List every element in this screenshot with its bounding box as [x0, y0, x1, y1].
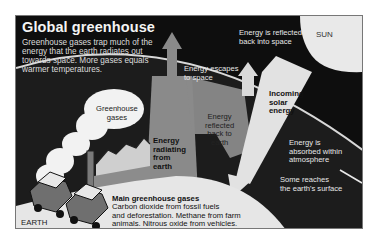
earth-label: EARTH	[21, 219, 47, 228]
diagram-title: Global greenhouse	[22, 19, 155, 35]
reaches-surface-label: Some reaches the earth's surface	[280, 176, 342, 193]
greenhouse-gases-label: Greenhouse gases	[96, 105, 138, 122]
absorbed-atmosphere-label: Energy is absorbed within atmosphere	[289, 139, 342, 165]
radiating-from-earth-label: Energy radiating from earth	[153, 137, 186, 172]
sun-shape	[300, 16, 363, 72]
main-gases-note: Main greenhouse gases Carbon dioxide fro…	[112, 195, 282, 229]
greenhouse-diagram: Global greenhouse Greenhouse gases trap …	[15, 15, 363, 229]
intro-text: Greenhouse gases trap much of the energy…	[22, 38, 162, 74]
reflected-to-earth-label: Energy reflected back to earth	[205, 113, 234, 147]
incoming-solar-label: Incoming solar energy	[269, 90, 304, 116]
reflected-into-space-label: Energy is reflected back into space	[239, 29, 302, 46]
escapes-to-space-label: Energy escapes to space	[184, 65, 238, 82]
sun-label: SUN	[316, 31, 333, 40]
